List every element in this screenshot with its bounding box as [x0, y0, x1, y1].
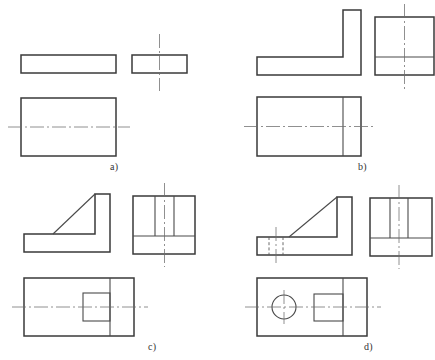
figure-d-side-view-outline [370, 198, 432, 256]
figure-b: b) [218, 0, 435, 180]
figure-b-label: b) [358, 161, 367, 172]
figure-c-side-view-outline [133, 196, 195, 254]
drawing-sheet: a) b) [0, 0, 435, 360]
figure-c-drawing [0, 180, 218, 360]
figure-d-front-view-L-outline [257, 197, 352, 255]
figure-c-front-view-L-outline [24, 194, 110, 252]
figure-d-top-view-rib-rectangle [314, 294, 343, 321]
figure-d-front-view-rib-diagonal [289, 197, 337, 237]
figure-a: a) [0, 0, 218, 180]
figure-c: c) [0, 180, 218, 360]
figure-d: d) [218, 180, 435, 360]
figure-c-label: c) [148, 341, 156, 352]
figure-c-front-view-rib-diagonal [53, 194, 95, 234]
figure-a-label: a) [110, 161, 118, 172]
figure-a-drawing [0, 0, 218, 180]
figure-a-front-view-outline [21, 55, 116, 73]
figure-b-drawing [218, 0, 435, 180]
figure-d-label: d) [364, 341, 373, 352]
figure-b-front-view-L-outline [257, 10, 361, 75]
figure-d-drawing [218, 180, 435, 360]
